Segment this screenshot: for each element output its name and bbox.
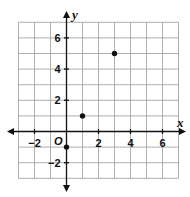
y-tick-label: 6 bbox=[54, 32, 60, 44]
x-tick-label: 6 bbox=[159, 137, 165, 149]
origin-label: O bbox=[54, 135, 63, 147]
y-axis-arrow-down-icon bbox=[63, 185, 70, 192]
y-axis-arrow-up-icon bbox=[63, 11, 70, 18]
data-point bbox=[64, 144, 69, 149]
grid-lines bbox=[19, 22, 179, 178]
x-tick-label: 4 bbox=[127, 137, 134, 149]
x-tick-label: −2 bbox=[28, 137, 41, 149]
x-axis-arrow-left-icon bbox=[7, 128, 14, 135]
y-axis-label: y bbox=[70, 7, 78, 22]
data-point bbox=[80, 113, 85, 118]
x-tick-label: 2 bbox=[95, 137, 101, 149]
y-tick-label: 4 bbox=[54, 63, 61, 75]
x-axis-label: x bbox=[176, 115, 184, 130]
y-tick-label: −2 bbox=[48, 157, 61, 169]
data-point bbox=[112, 51, 117, 56]
coordinate-plane: −2246−2246 x y O bbox=[0, 0, 190, 197]
y-tick-label: 2 bbox=[54, 94, 60, 106]
